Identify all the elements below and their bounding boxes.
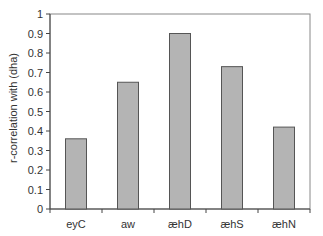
y-tick-label: 0.2 bbox=[28, 164, 43, 176]
bar bbox=[222, 67, 243, 209]
y-tick-label: 1 bbox=[37, 8, 43, 20]
y-tick-label: 0.4 bbox=[28, 125, 43, 137]
bar bbox=[66, 139, 87, 209]
y-tick-label: 0.6 bbox=[28, 86, 43, 98]
y-tick-label: 0.5 bbox=[28, 106, 43, 118]
y-axis-label: r-correlation with (dha) bbox=[7, 33, 19, 183]
x-tick-label: eyC bbox=[66, 218, 86, 230]
y-tick-label: 0.7 bbox=[28, 67, 43, 79]
y-tick-label: 0 bbox=[37, 203, 43, 215]
x-tick-label: æhN bbox=[272, 218, 296, 230]
x-tick-label: æhS bbox=[220, 218, 243, 230]
chart-canvas: 00.10.20.30.40.50.60.70.80.91eyCawæhDæhS… bbox=[0, 0, 323, 236]
y-tick-label: 0.8 bbox=[28, 47, 43, 59]
x-tick-label: aw bbox=[121, 218, 135, 230]
y-tick-label: 0.3 bbox=[28, 145, 43, 157]
x-tick-label: æhD bbox=[168, 218, 192, 230]
y-tick-label: 0.9 bbox=[28, 28, 43, 40]
bar bbox=[274, 127, 295, 209]
bar bbox=[170, 34, 191, 210]
y-tick-label: 0.1 bbox=[28, 184, 43, 196]
bar bbox=[118, 82, 139, 209]
